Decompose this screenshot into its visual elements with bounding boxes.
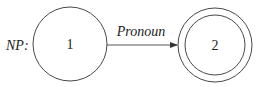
fsa-diagram: NP: 1 Pronoun 2	[0, 0, 257, 87]
transition-1-2: Pronoun	[107, 24, 177, 45]
network-label: NP:	[5, 38, 29, 53]
transition-label: Pronoun	[116, 24, 165, 39]
state-1: 1	[33, 7, 107, 81]
state-2: 2	[178, 8, 252, 82]
state-1-label: 1	[67, 37, 74, 52]
state-2-label: 2	[212, 38, 219, 53]
